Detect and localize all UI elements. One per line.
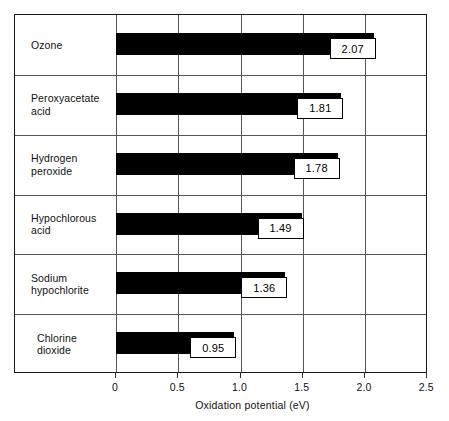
x-tick-label: 1.0 bbox=[220, 381, 260, 393]
x-tick-mark bbox=[177, 373, 178, 378]
bar-row: Hypochlorous acid1.49 bbox=[15, 195, 426, 255]
bar-chart: Ozone2.07Peroxyacetate acid1.81Hydrogen … bbox=[0, 0, 449, 421]
plot-area: Ozone2.07Peroxyacetate acid1.81Hydrogen … bbox=[14, 14, 427, 373]
x-tick-mark bbox=[426, 373, 427, 378]
category-label: Sodium hypochlorite bbox=[15, 254, 115, 314]
category-label: Hydrogen peroxide bbox=[15, 135, 115, 195]
category-label: Chlorine dioxide bbox=[15, 314, 115, 374]
category-label: Peroxyacetate acid bbox=[15, 75, 115, 135]
row-separator bbox=[15, 75, 426, 76]
category-label: Hypochlorous acid bbox=[15, 195, 115, 255]
category-label: Ozone bbox=[15, 15, 115, 75]
x-tick-label: 1.5 bbox=[282, 381, 322, 393]
bar-value-label: 2.07 bbox=[330, 38, 376, 59]
x-tick-mark bbox=[240, 373, 241, 378]
row-separator bbox=[15, 195, 426, 196]
bar-value-label: 1.49 bbox=[258, 218, 304, 239]
bar-value-label: 1.78 bbox=[294, 158, 340, 179]
x-tick-mark bbox=[364, 373, 365, 378]
bar-row: Ozone2.07 bbox=[15, 15, 426, 75]
x-axis-title: Oxidation potential (eV) bbox=[0, 399, 449, 411]
x-tick-mark bbox=[302, 373, 303, 378]
x-tick-mark bbox=[115, 373, 116, 378]
row-separator bbox=[15, 135, 426, 136]
bar-value-label: 1.81 bbox=[297, 98, 343, 119]
x-tick-label: 0 bbox=[95, 381, 135, 393]
bar-row: Peroxyacetate acid1.81 bbox=[15, 75, 426, 135]
row-separator bbox=[15, 314, 426, 315]
x-tick-label: 2.5 bbox=[406, 381, 446, 393]
bar-value-label: 0.95 bbox=[190, 337, 236, 358]
row-separator bbox=[15, 254, 426, 255]
bar-value-label: 1.36 bbox=[241, 277, 287, 298]
x-tick-label: 2.0 bbox=[344, 381, 384, 393]
bar-row: Hydrogen peroxide1.78 bbox=[15, 135, 426, 195]
x-tick-label: 0.5 bbox=[157, 381, 197, 393]
bar-row: Chlorine dioxide0.95 bbox=[15, 314, 426, 374]
x-axis-title-text: Oxidation potential (eV) bbox=[195, 399, 310, 411]
bar-row: Sodium hypochlorite1.36 bbox=[15, 254, 426, 314]
